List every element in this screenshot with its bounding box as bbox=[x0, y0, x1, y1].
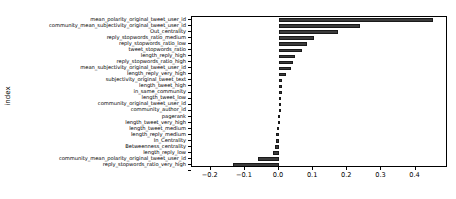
bar bbox=[273, 151, 279, 154]
y-tick-mark bbox=[188, 61, 191, 62]
y-tick-mark bbox=[188, 146, 191, 147]
y-tick-mark bbox=[188, 164, 191, 165]
bar bbox=[258, 157, 280, 160]
bar bbox=[279, 73, 286, 76]
bar bbox=[279, 109, 281, 112]
x-tick-label: 0.4 bbox=[409, 171, 420, 179]
x-tick-label: 0.0 bbox=[273, 171, 284, 179]
bars-container bbox=[192, 17, 446, 166]
y-tick-mark bbox=[188, 128, 191, 129]
bar bbox=[279, 103, 281, 106]
bar bbox=[279, 30, 338, 33]
y-tick-mark bbox=[188, 49, 191, 50]
y-tick-mark bbox=[188, 67, 191, 68]
y-tick-mark bbox=[188, 158, 191, 159]
bar bbox=[276, 133, 279, 136]
y-tick-mark bbox=[188, 19, 191, 20]
y-tick-mark bbox=[188, 92, 191, 93]
y-tick-mark bbox=[188, 31, 191, 32]
bar bbox=[279, 61, 293, 64]
x-tick-label: −0.2 bbox=[202, 171, 218, 179]
bar bbox=[279, 24, 360, 27]
bar bbox=[279, 85, 282, 88]
bar bbox=[279, 49, 302, 52]
x-tick-label: 0.3 bbox=[375, 171, 386, 179]
y-axis-tick-labels: mean_polarity_original_tweet_user_idcomm… bbox=[8, 16, 189, 167]
bar bbox=[279, 55, 295, 58]
y-tick-mark bbox=[188, 140, 191, 141]
y-tick-mark bbox=[188, 122, 191, 123]
x-tick-mark bbox=[380, 167, 381, 170]
y-tick-label: reply_stopwords_ratio_very_high bbox=[103, 161, 189, 167]
figure-canvas: index mean_polarity_original_tweet_user_… bbox=[0, 0, 456, 199]
y-tick-mark bbox=[188, 104, 191, 105]
x-tick-label: 0.1 bbox=[307, 171, 318, 179]
y-tick-mark bbox=[188, 98, 191, 99]
x-tick-mark bbox=[346, 167, 347, 170]
bar bbox=[277, 127, 279, 130]
x-tick-mark bbox=[312, 167, 313, 170]
y-tick-mark bbox=[188, 55, 191, 56]
bar bbox=[278, 121, 280, 124]
y-tick-mark bbox=[188, 152, 191, 153]
bar bbox=[279, 18, 433, 21]
bar bbox=[279, 36, 313, 39]
bar bbox=[279, 79, 282, 82]
y-tick-mark bbox=[188, 43, 191, 44]
y-tick-mark bbox=[188, 170, 191, 171]
y-tick-mark bbox=[188, 37, 191, 38]
y-tick-mark bbox=[188, 85, 191, 86]
bar bbox=[279, 97, 281, 100]
x-tick-label: −0.1 bbox=[236, 171, 252, 179]
y-tick-mark bbox=[188, 73, 191, 74]
plot-area bbox=[191, 16, 447, 167]
bar bbox=[279, 42, 307, 45]
bar bbox=[276, 139, 279, 142]
x-tick-label: 0.2 bbox=[341, 171, 352, 179]
y-tick-mark bbox=[188, 134, 191, 135]
x-tick-mark bbox=[244, 167, 245, 170]
y-tick-mark bbox=[188, 79, 191, 80]
bar bbox=[279, 67, 291, 70]
x-tick-mark bbox=[210, 167, 211, 170]
y-tick-mark bbox=[188, 110, 191, 111]
y-tick-mark bbox=[188, 116, 191, 117]
bar bbox=[275, 145, 279, 148]
bar bbox=[279, 91, 282, 94]
x-tick-mark bbox=[278, 167, 279, 170]
bar bbox=[278, 115, 280, 118]
y-tick-mark bbox=[188, 25, 191, 26]
bar bbox=[233, 163, 279, 166]
x-tick-mark bbox=[415, 167, 416, 170]
